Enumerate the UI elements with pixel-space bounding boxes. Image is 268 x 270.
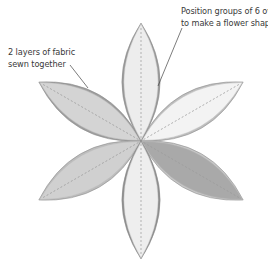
annotation-right-line2: to make a flower shape [181,17,268,29]
flower-diagram [0,0,268,270]
annotation-right-line1: Position groups of 6 ovals [181,5,268,17]
annotation-left-line1: 2 layers of fabric [8,46,75,58]
leader-line-right [158,28,182,86]
annotation-position-ovals: Position groups of 6 ovals to make a flo… [181,5,268,29]
annotation-left-line2: sewn together [8,58,75,70]
annotation-two-layers: 2 layers of fabric sewn together [8,46,75,70]
